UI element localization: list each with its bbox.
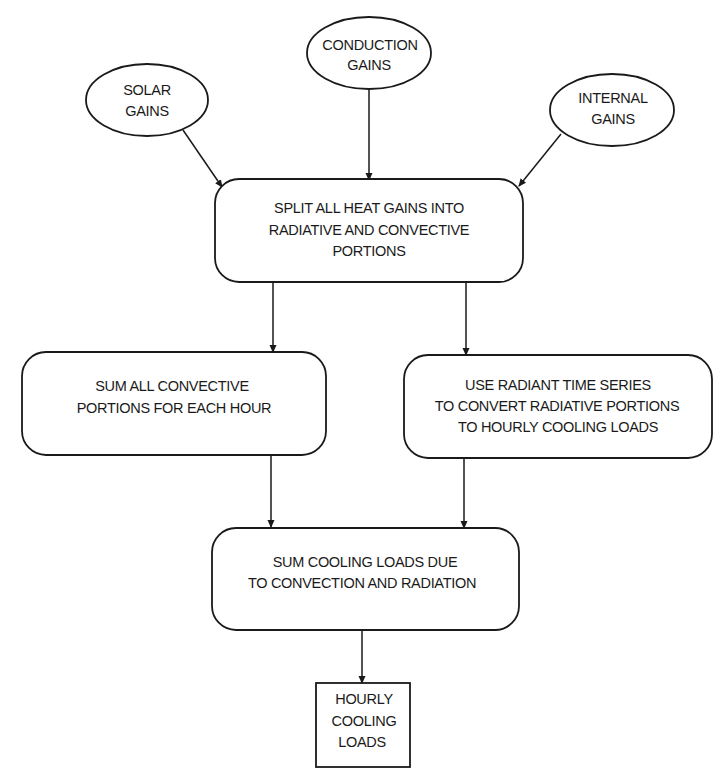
node-sum-cooling-loads: SUM COOLING LOADS DUE TO CONVECTION AND … bbox=[212, 528, 519, 630]
node-conduction-gains: CONDUCTION GAINS bbox=[307, 17, 431, 89]
node-convective-line-2: PORTIONS FOR EACH HOUR bbox=[77, 400, 272, 416]
node-conduction-gains-line-1: CONDUCTION bbox=[322, 37, 417, 53]
node-split-line-1: SPLIT ALL HEAT GAINS INTO bbox=[274, 200, 464, 216]
node-convective-line-1: SUM ALL CONVECTIVE bbox=[95, 378, 249, 394]
node-solar-gains: SOLAR GAINS bbox=[86, 64, 208, 136]
node-solar-gains-line-1: SOLAR bbox=[123, 82, 171, 98]
node-internal-gains-line-2: GAINS bbox=[591, 111, 635, 127]
node-solar-gains-line-2: GAINS bbox=[125, 103, 169, 119]
node-internal-gains: INTERNAL GAINS bbox=[550, 74, 674, 146]
node-sum-line-2: TO CONVECTION AND RADIATION bbox=[248, 575, 476, 591]
node-sum-line-1: SUM COOLING LOADS DUE bbox=[273, 554, 458, 570]
edge-solar-to-split bbox=[183, 130, 222, 187]
node-radiant-line-3: TO HOURLY COOLING LOADS bbox=[458, 419, 658, 435]
node-output-line-3: LOADS bbox=[338, 734, 386, 750]
node-radiant-line-1: USE RADIANT TIME SERIES bbox=[465, 377, 651, 393]
node-conduction-gains-line-2: GAINS bbox=[347, 57, 391, 73]
node-hourly-cooling-loads: HOURLY COOLING LOADS bbox=[316, 683, 410, 767]
node-internal-gains-line-1: INTERNAL bbox=[578, 90, 648, 106]
node-output-line-2: COOLING bbox=[332, 713, 397, 729]
node-radiant-line-2: TO CONVERT RADIATIVE PORTIONS bbox=[435, 398, 680, 414]
node-split-line-2: RADIATIVE AND CONVECTIVE bbox=[269, 222, 470, 238]
node-split-line-3: PORTIONS bbox=[332, 243, 405, 259]
flowchart-canvas: SOLAR GAINS CONDUCTION GAINS INTERNAL GA… bbox=[0, 0, 725, 781]
node-split-heat-gains: SPLIT ALL HEAT GAINS INTO RADIATIVE AND … bbox=[215, 179, 523, 282]
edge-internal-to-split bbox=[519, 134, 561, 186]
node-radiant-time-series: USE RADIANT TIME SERIES TO CONVERT RADIA… bbox=[404, 355, 712, 458]
node-output-line-1: HOURLY bbox=[335, 691, 393, 707]
node-sum-convective: SUM ALL CONVECTIVE PORTIONS FOR EACH HOU… bbox=[22, 352, 326, 455]
